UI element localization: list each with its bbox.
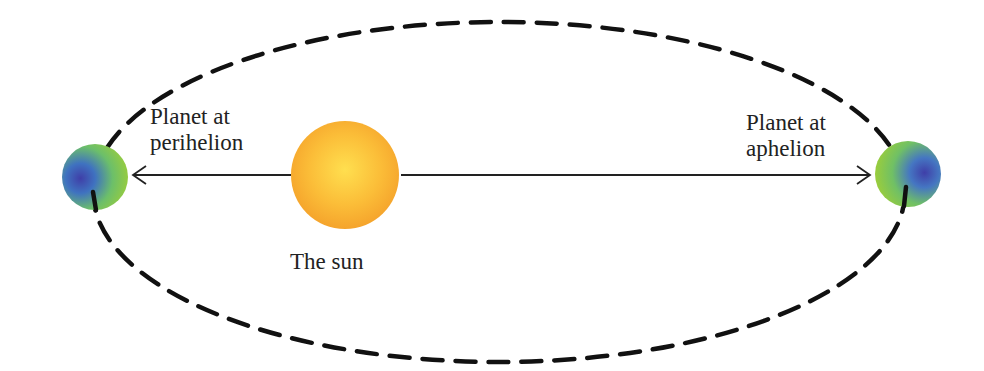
perihelion-label-line2: perihelion bbox=[150, 130, 243, 156]
sun-label: The sun bbox=[290, 249, 363, 275]
perihelion-label-line1: Planet at bbox=[150, 104, 243, 130]
aphelion-label: Planet at aphelion bbox=[746, 110, 826, 162]
aphelion-label-line2: aphelion bbox=[746, 136, 826, 162]
planet-aphelion-icon bbox=[875, 141, 941, 207]
orbit-path bbox=[93, 22, 905, 362]
perihelion-label: Planet at perihelion bbox=[150, 104, 243, 156]
aphelion-label-line1: Planet at bbox=[746, 110, 826, 136]
orbit-segment-over-left-planet bbox=[93, 192, 96, 210]
sun-icon bbox=[291, 121, 399, 229]
orbit-diagram-svg bbox=[0, 0, 984, 371]
orbit-diagram: Planet at perihelion Planet at aphelion … bbox=[0, 0, 984, 371]
orbit-segment-over-right-planet bbox=[904, 187, 906, 206]
